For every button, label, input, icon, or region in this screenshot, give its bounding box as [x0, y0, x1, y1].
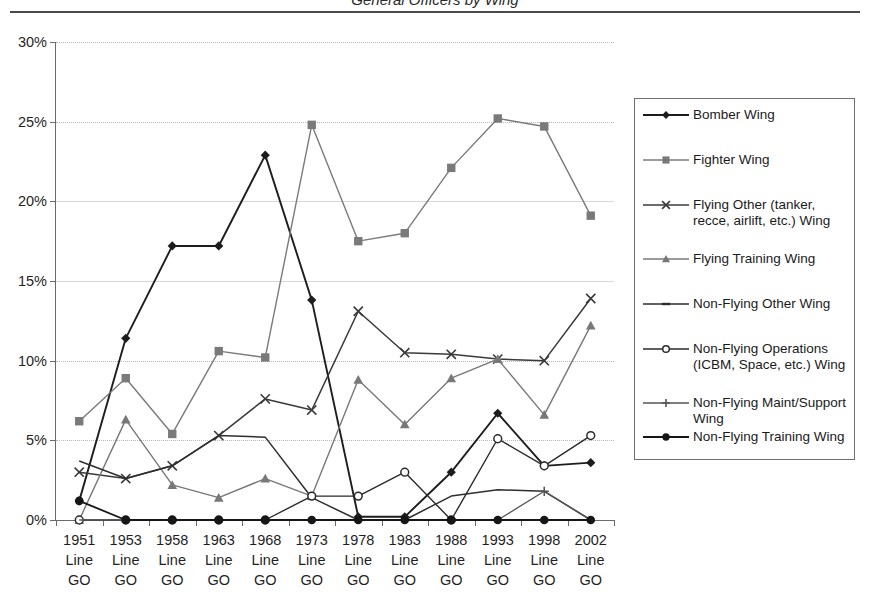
marker-square [401, 229, 409, 237]
x-tick [196, 520, 197, 526]
legend-label: Non-Flying Maint/Support Wing [693, 395, 856, 427]
marker-diamond [214, 241, 223, 250]
series-line [79, 436, 591, 520]
x-tick [475, 520, 476, 526]
marker-square [308, 121, 316, 129]
marker-plus [662, 399, 670, 407]
plot-area: 0%5%10%15%20%25%30% 1951LineGO1953LineGO… [55, 42, 614, 521]
legend-item-2[interactable]: Flying Other (tanker, recce, airlift, et… [635, 197, 856, 229]
marker-filled-circle [354, 516, 363, 525]
marker-filled-circle [447, 516, 456, 525]
page-title-text: General Officers by Wing [351, 0, 518, 8]
legend-key-x-icon [641, 197, 693, 213]
legend-item-1[interactable]: Fighter Wing [635, 152, 856, 168]
marker-filled-circle [168, 516, 177, 525]
x-axis-label-line: GO [110, 570, 142, 590]
series-7 [75, 497, 595, 525]
x-tick [568, 520, 569, 526]
x-axis-label-1973: 1973LineGO [296, 530, 328, 590]
x-axis-label-1953: 1953LineGO [110, 530, 142, 590]
x-axis-label-line: GO [528, 570, 560, 590]
marker-diamond [261, 151, 270, 160]
marker-square [447, 164, 455, 172]
x-axis-label-line: 1988 [435, 530, 467, 550]
legend-item-4[interactable]: Non-Flying Other Wing [635, 296, 856, 312]
series-2 [75, 294, 596, 483]
legend-label: Non-Flying Operations (ICBM, Space, etc.… [693, 341, 856, 373]
x-axis-label-line: GO [575, 570, 607, 590]
x-axis-label-1963: 1963LineGO [203, 530, 235, 590]
legend-item-0[interactable]: Bomber Wing [635, 107, 856, 123]
x-axis-label-line: GO [482, 570, 514, 590]
marker-square [215, 347, 223, 355]
x-axis-label-line: Line [575, 550, 607, 570]
series-0 [75, 151, 596, 522]
x-axis-label-line: Line [342, 550, 374, 570]
y-axis-label-25%: 25% [18, 114, 47, 130]
legend-label: Non-Flying Training Wing [693, 429, 849, 445]
x-axis-label-line: 1998 [528, 530, 560, 550]
x-axis-label-line: 1993 [482, 530, 514, 550]
marker-square [75, 417, 83, 425]
x-axis-label-line: Line [528, 550, 560, 570]
series-1 [75, 114, 595, 438]
legend-key-diamond-icon [641, 107, 693, 123]
x-axis-label-line: 1968 [249, 530, 281, 550]
marker-filled-circle [75, 497, 84, 506]
series-lines [56, 42, 614, 520]
legend-label: Flying Training Wing [693, 251, 819, 267]
legend-item-5[interactable]: Non-Flying Operations (ICBM, Space, etc.… [635, 341, 856, 373]
x-axis-label-line: Line [482, 550, 514, 570]
x-axis-label-line: GO [203, 570, 235, 590]
x-axis-label-line: GO [296, 570, 328, 590]
x-axis-label-line: 1951 [63, 530, 95, 550]
x-tick [382, 520, 383, 526]
x-axis-label-1968: 1968LineGO [249, 530, 281, 590]
marker-filled-circle [121, 516, 130, 525]
marker-filled-circle [540, 516, 549, 525]
marker-x [586, 294, 595, 303]
legend-item-6[interactable]: Non-Flying Maint/Support Wing [635, 395, 856, 427]
x-tick [521, 520, 522, 526]
marker-open-circle [308, 492, 316, 500]
legend-label: Flying Other (tanker, recce, airlift, et… [693, 197, 856, 229]
y-axis-label-10%: 10% [18, 353, 47, 369]
x-tick [242, 520, 243, 526]
x-axis-label-line: Line [389, 550, 421, 570]
x-axis-label-line: GO [389, 570, 421, 590]
marker-square [494, 114, 502, 122]
x-axis-label-line: Line [435, 550, 467, 570]
x-axis-label-1983: 1983LineGO [389, 530, 421, 590]
series-line [79, 299, 591, 479]
marker-open-circle [354, 492, 362, 500]
y-axis-label-0%: 0% [26, 512, 47, 528]
x-axis-label-line: 1963 [203, 530, 235, 550]
marker-triangle [353, 375, 363, 384]
marker-open-circle [494, 435, 502, 443]
x-axis-label-1958: 1958LineGO [156, 530, 188, 590]
marker-plus [540, 487, 549, 496]
x-tick [289, 520, 290, 526]
x-axis-label-line: GO [342, 570, 374, 590]
legend-item-3[interactable]: Flying Training Wing [635, 251, 856, 267]
x-tick [335, 520, 336, 526]
marker-open-circle [401, 468, 409, 476]
marker-square [168, 430, 176, 438]
x-axis-label-line: 2002 [575, 530, 607, 550]
marker-x [354, 307, 363, 316]
marker-diamond [586, 458, 595, 467]
marker-square [122, 374, 130, 382]
marker-filled-circle [261, 516, 270, 525]
marker-square [662, 156, 669, 163]
x-axis-label-1998: 1998LineGO [528, 530, 560, 590]
marker-diamond [307, 296, 316, 305]
legend-label: Fighter Wing [693, 152, 774, 168]
legend-label: Non-Flying Other Wing [693, 296, 834, 312]
legend-item-7[interactable]: Non-Flying Training Wing [635, 429, 856, 445]
x-axis-label-line: GO [156, 570, 188, 590]
x-tick [428, 520, 429, 526]
chart-page: General Officers by Wing 0%5%10%15%20%25… [0, 0, 870, 592]
x-axis-label-line: Line [156, 550, 188, 570]
page-title-clipped: General Officers by Wing [0, 0, 870, 10]
marker-diamond [662, 111, 670, 119]
